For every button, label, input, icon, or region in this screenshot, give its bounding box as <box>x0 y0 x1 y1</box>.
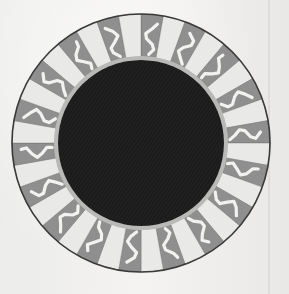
eclipsed-sun-engraving <box>0 0 289 294</box>
dark-sun-disk <box>58 60 224 226</box>
